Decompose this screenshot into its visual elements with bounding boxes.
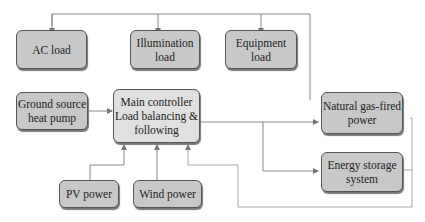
node-wind-power: Wind power xyxy=(133,180,202,208)
node-label: Natural gas-fired power xyxy=(322,99,402,127)
node-pv-power: PV power xyxy=(59,180,119,208)
node-ac-load: AC load xyxy=(16,30,87,69)
node-ground-source-heat-pump: Ground source heat pump xyxy=(16,92,88,130)
node-label: Energy storage system xyxy=(322,158,402,186)
node-label: Illumination load xyxy=(131,36,199,64)
node-energy-storage: Energy storage system xyxy=(321,152,403,192)
node-label: AC load xyxy=(32,43,71,57)
node-illumination-load: Illumination load xyxy=(130,30,200,69)
node-label: Ground source heat pump xyxy=(17,97,87,125)
node-equipment-load: Equipment load xyxy=(225,30,297,69)
node-label: PV power xyxy=(66,187,112,201)
node-natural-gas-power: Natural gas-fired power xyxy=(321,92,403,134)
system-diagram: AC load Illumination load Equipment load… xyxy=(0,0,425,222)
node-main-controller: Main controller Load balancing & followi… xyxy=(113,89,200,143)
node-label: Main controller Load balancing & followi… xyxy=(114,95,199,137)
node-label: Wind power xyxy=(139,187,196,201)
node-label: Equipment load xyxy=(226,36,296,64)
